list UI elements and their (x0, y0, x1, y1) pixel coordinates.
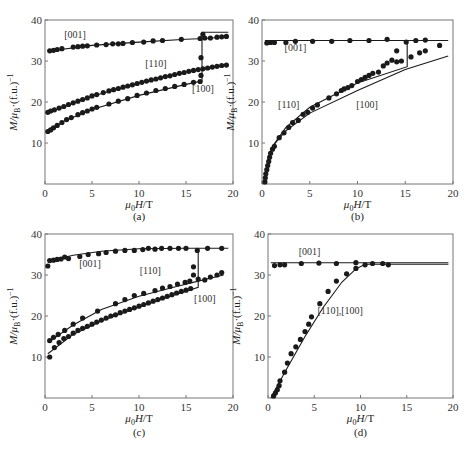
data-point (160, 295, 165, 300)
data-point (326, 95, 331, 100)
data-point (282, 370, 287, 375)
data-point (86, 252, 91, 257)
plot-frame (45, 234, 233, 398)
plot-frame (268, 234, 453, 398)
data-point (141, 302, 146, 307)
data-point (80, 110, 85, 115)
data-point (160, 38, 165, 43)
data-point (153, 88, 158, 93)
data-point (423, 38, 428, 43)
y-tick-label: 40 (254, 228, 266, 240)
data-point (94, 320, 99, 325)
data-point (349, 83, 354, 88)
series-label: [100] (192, 83, 214, 94)
data-point (208, 35, 213, 40)
data-point (176, 246, 181, 251)
y-tick-label: 40 (248, 14, 260, 26)
data-point (363, 262, 368, 267)
x-tick-label: 15 (181, 187, 193, 199)
data-point (214, 272, 219, 277)
series-110100: [110],[100] (271, 262, 449, 398)
data-point (151, 299, 156, 304)
panel-caption: (d) (354, 426, 367, 439)
data-point (198, 73, 203, 78)
data-point (191, 264, 196, 269)
data-point (310, 39, 315, 44)
y-axis-label: M/μB·(f.u.)−1 (6, 73, 22, 131)
data-point (316, 261, 321, 266)
y-tick-label: 20 (31, 310, 43, 322)
data-point (125, 96, 130, 101)
data-point (370, 261, 375, 266)
data-point (80, 44, 85, 49)
x-tick-label: 5 (89, 187, 95, 199)
data-point (101, 90, 106, 95)
data-point (146, 300, 151, 305)
data-point (188, 286, 193, 291)
data-point (163, 74, 168, 79)
series-label: [100] (356, 99, 378, 110)
data-point (159, 246, 164, 251)
data-point (64, 117, 69, 122)
data-point (57, 340, 62, 345)
data-point (56, 332, 61, 337)
data-point (141, 40, 146, 45)
fit-line (48, 248, 229, 261)
x-tick-label: 5 (307, 187, 313, 199)
data-point (277, 378, 282, 383)
data-point (195, 248, 200, 253)
data-point (104, 250, 109, 255)
data-point (132, 293, 137, 298)
data-point (99, 318, 104, 323)
data-point (334, 279, 339, 284)
y-tick-label: 40 (31, 228, 43, 240)
data-point (293, 344, 298, 349)
data-point (310, 106, 315, 111)
data-point (153, 76, 158, 81)
data-point (80, 316, 85, 321)
data-point (106, 101, 111, 106)
x-tick-label: 20 (228, 187, 240, 199)
series-001: [001] (45, 246, 228, 269)
data-point (394, 48, 399, 53)
data-point (116, 99, 121, 104)
data-point (380, 261, 385, 266)
data-point (94, 105, 99, 110)
data-point (135, 81, 140, 86)
data-point (132, 305, 137, 310)
data-point (277, 262, 282, 267)
series-001: [001] (264, 37, 448, 53)
panel-caption: (b) (351, 210, 364, 223)
data-point (219, 63, 224, 68)
data-point (404, 40, 409, 45)
data-point (399, 58, 404, 63)
data-point (71, 322, 76, 327)
y-tick-label: 30 (31, 55, 43, 67)
data-point (75, 44, 80, 49)
data-point (104, 42, 109, 47)
data-point (326, 289, 331, 294)
data-point (417, 50, 422, 55)
data-point (127, 307, 132, 312)
data-point (179, 37, 184, 42)
data-point (141, 291, 146, 296)
data-point (183, 246, 188, 251)
data-point (219, 270, 224, 275)
data-point (437, 43, 442, 48)
y-tick-label: 10 (248, 137, 260, 149)
data-point (329, 39, 334, 44)
x-tick-label: 0 (42, 401, 48, 413)
data-point (110, 41, 115, 46)
data-point (136, 304, 141, 309)
data-point (224, 63, 229, 68)
data-point (61, 104, 66, 109)
x-axis-label: μ0H/T (346, 412, 375, 427)
series-label: [001] (299, 246, 321, 257)
x-tick-label: 15 (181, 401, 193, 413)
data-point (120, 85, 125, 90)
series-label: [110] (140, 265, 161, 276)
data-point (167, 246, 172, 251)
y-axis-label: M/μB·(f.u.)−1 (229, 287, 245, 345)
data-point (353, 266, 358, 271)
data-point (210, 65, 215, 70)
